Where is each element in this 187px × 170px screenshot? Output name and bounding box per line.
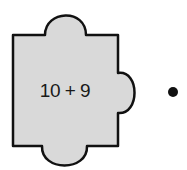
- connector-dot: [168, 87, 178, 97]
- puzzle-expression: 10 + 9: [20, 80, 110, 102]
